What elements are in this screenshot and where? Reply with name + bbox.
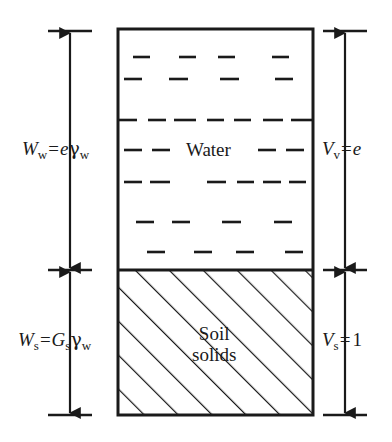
water-region-label: Water	[186, 140, 231, 159]
volume-solids-value: 1	[351, 329, 363, 350]
label-weight-of-water: Ww=eγw	[22, 139, 89, 161]
soil-phase-diagram: Ww=eγw Ws=Gsγw Vv=e Vs=1 Water Soil soli…	[0, 0, 392, 442]
weight-solids-gamma-subscript: w	[82, 338, 91, 353]
weight-water-symbol: W	[22, 138, 38, 159]
volume-solids-equals: =	[339, 329, 352, 350]
diagram-canvas	[0, 0, 392, 442]
weight-solids-symbol: W	[18, 329, 34, 350]
soil-label-line-2: solids	[192, 345, 236, 364]
weight-water-gamma: γ	[68, 137, 79, 159]
weight-water-gamma-subscript: w	[80, 147, 89, 162]
soil-label-line-1: Soil	[199, 323, 230, 344]
soil-region-label: Soil solids	[192, 324, 236, 364]
left-dimension-axis	[48, 31, 92, 415]
weight-solids-equals: =	[39, 329, 52, 350]
label-weight-of-solids: Ws=Gsγw	[18, 330, 91, 352]
volume-voids-symbol: V	[322, 138, 334, 159]
volume-voids-value: e	[353, 138, 361, 159]
weight-solids-gamma: γ	[70, 328, 81, 350]
weight-water-subscript: w	[38, 147, 47, 162]
right-dimension-axis	[323, 31, 367, 415]
label-volume-of-voids: Vv=e	[322, 139, 361, 161]
weight-solids-gs: G	[52, 329, 66, 350]
volume-solids-symbol: V	[322, 329, 334, 350]
weight-water-equals: =	[47, 138, 60, 159]
volume-voids-equals: =	[340, 138, 353, 159]
volume-solids-subscript: s	[334, 338, 339, 353]
label-volume-of-solids: Vs=1	[322, 330, 363, 352]
